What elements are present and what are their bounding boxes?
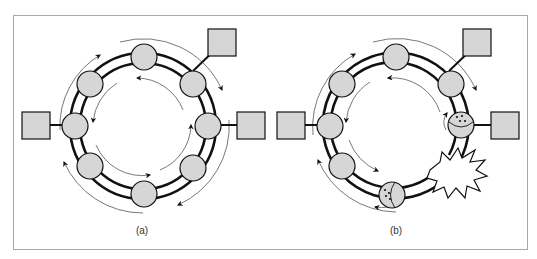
station-node	[195, 113, 221, 139]
caption-b: (b)	[390, 225, 402, 236]
flow-arrow-icon	[388, 78, 440, 112]
station-node	[329, 71, 355, 97]
wrapped-station-right	[448, 112, 474, 138]
caption-a: (a)	[136, 225, 148, 236]
host-box	[491, 112, 519, 139]
host-box	[208, 29, 236, 56]
flow-arrow-icon	[444, 113, 447, 130]
wrapped-station-bottom	[379, 182, 405, 208]
flow-arrow-icon	[137, 78, 183, 110]
ring-diagram	[0, 0, 537, 259]
station-node	[62, 113, 88, 139]
station-node	[131, 181, 157, 207]
station-node	[438, 71, 464, 97]
host-box	[237, 112, 265, 139]
station-node	[180, 155, 206, 181]
host-box	[22, 112, 50, 139]
host-box	[277, 112, 305, 139]
station-node	[77, 153, 103, 179]
station-node	[329, 153, 355, 179]
ring-break-icon	[427, 148, 487, 198]
panel-a	[22, 29, 265, 213]
station-node	[131, 44, 157, 70]
host-box	[463, 29, 491, 56]
station-node	[383, 44, 409, 70]
station-node	[180, 71, 206, 97]
station-node	[317, 113, 343, 139]
panel-b	[277, 29, 519, 212]
station-node	[77, 71, 103, 97]
flow-arrow-icon	[96, 145, 150, 176]
